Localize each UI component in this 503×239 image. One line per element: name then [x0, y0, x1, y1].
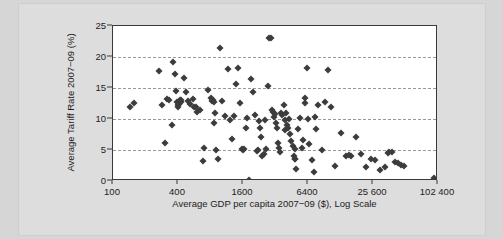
x-tick-mark-102400: [437, 180, 438, 184]
x-tick-label-400: 400: [169, 186, 185, 197]
data-point: [293, 165, 300, 172]
y-axis-title: Average Tariff Rate 2007−09 (%): [64, 25, 78, 180]
x-tick-label-1600: 1600: [231, 186, 252, 197]
data-point: [310, 168, 317, 175]
data-point: [248, 76, 255, 83]
data-point: [258, 133, 265, 140]
figure-root: Average Tariff Rate 2007−09 (%) 05101520…: [0, 0, 503, 239]
data-point: [280, 102, 287, 109]
data-point: [276, 149, 283, 156]
data-point: [263, 145, 270, 152]
data-point: [171, 70, 178, 77]
data-point: [306, 140, 313, 147]
data-point: [321, 98, 328, 105]
data-point: [156, 67, 163, 74]
data-point: [244, 115, 251, 122]
data-point: [201, 144, 208, 151]
data-point: [224, 65, 231, 72]
data-point: [318, 146, 325, 153]
y-tick-label-20: 20: [95, 51, 106, 62]
data-point: [295, 125, 302, 132]
data-point: [362, 163, 369, 170]
data-point: [264, 82, 271, 89]
data-point: [255, 118, 262, 125]
data-point: [372, 156, 379, 163]
data-point: [212, 146, 219, 153]
data-point: [182, 88, 189, 95]
x-tick-mark-1600: [242, 180, 243, 184]
data-point: [384, 150, 391, 157]
data-point: [215, 155, 222, 162]
x-tick-label-25600: 25 600: [357, 186, 386, 197]
data-point: [302, 99, 309, 106]
y-axis-ticks: 0510152025: [92, 25, 112, 180]
data-point: [235, 65, 242, 72]
x-tick-mark-6400: [307, 180, 308, 184]
plot-area: [112, 25, 437, 180]
y-tick-label-10: 10: [95, 113, 106, 124]
x-tick-label-102400: 102 400: [420, 186, 454, 197]
data-point: [298, 145, 305, 152]
data-point: [291, 145, 298, 152]
data-point: [308, 156, 315, 163]
y-tick-label-0: 0: [101, 175, 106, 186]
data-point: [256, 125, 263, 132]
data-point: [172, 88, 179, 95]
x-tick-mark-25600: [372, 180, 373, 184]
data-point: [205, 87, 212, 94]
x-axis-title: Average GDP per capita 2007−09 ($), Log …: [112, 198, 437, 209]
data-point: [168, 122, 175, 129]
data-points-layer: [113, 26, 436, 179]
data-point: [401, 162, 408, 169]
x-axis-ticks: 1004001600640025 600102 400: [112, 180, 437, 200]
data-point: [353, 133, 360, 140]
data-point: [332, 163, 339, 170]
data-point: [161, 139, 168, 146]
data-point: [210, 119, 217, 126]
y-tick-label-5: 5: [101, 144, 106, 155]
x-tick-label-6400: 6400: [296, 186, 317, 197]
x-tick-mark-400: [177, 180, 178, 184]
data-point: [233, 80, 240, 87]
scatter-chart: Average Tariff Rate 2007−09 (%) 05101520…: [0, 0, 503, 239]
data-point: [431, 174, 436, 179]
data-point: [242, 125, 249, 132]
data-point: [218, 97, 225, 104]
data-point: [328, 103, 335, 110]
y-tick-label-25: 25: [95, 20, 106, 31]
data-point: [311, 113, 318, 120]
data-point: [313, 125, 320, 132]
data-point: [180, 75, 187, 82]
data-point: [249, 88, 256, 95]
data-point: [245, 176, 252, 179]
y-tick-label-15: 15: [95, 82, 106, 93]
data-point: [292, 156, 299, 163]
data-point: [303, 65, 310, 72]
data-point: [159, 101, 166, 108]
data-point: [131, 99, 138, 106]
data-point: [199, 157, 206, 164]
data-point: [211, 110, 218, 117]
data-point: [358, 151, 365, 158]
data-point: [228, 135, 235, 142]
data-point: [170, 58, 177, 65]
data-point: [324, 66, 331, 73]
x-tick-label-100: 100: [104, 186, 120, 197]
data-point: [296, 115, 303, 122]
x-tick-mark-100: [112, 180, 113, 184]
data-point: [338, 130, 345, 137]
data-point: [236, 99, 243, 106]
data-point: [216, 45, 223, 52]
